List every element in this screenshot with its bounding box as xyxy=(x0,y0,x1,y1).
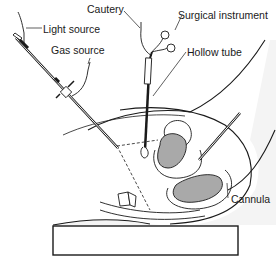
scope-tube xyxy=(118,192,136,207)
laparoscopy-diagram xyxy=(0,0,276,265)
label-hollow-tube: Hollow tube xyxy=(187,46,242,58)
label-surgical-instrument: Surgical instrument xyxy=(178,9,268,21)
label-light-source: Light source xyxy=(43,23,100,35)
label-cautery: Cautery xyxy=(87,3,124,15)
label-cannula: Cannula xyxy=(231,193,270,205)
label-gas-source: Gas source xyxy=(51,44,105,56)
cannula xyxy=(199,113,240,160)
operating-table xyxy=(53,226,238,255)
